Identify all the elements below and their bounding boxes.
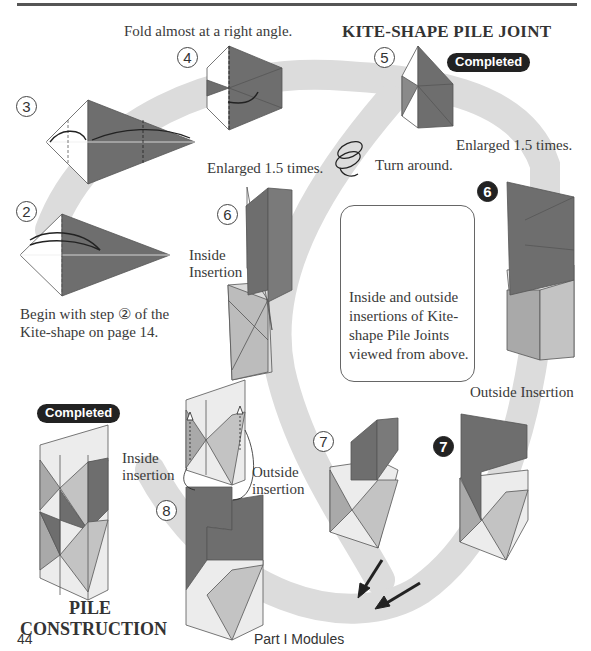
page-title: KITE-SHAPE PILE JOINT bbox=[342, 22, 551, 42]
step-number-3: 3 bbox=[16, 96, 37, 117]
step-number-8: 8 bbox=[156, 500, 177, 521]
caption-outside-insertion: Outside Insertion bbox=[470, 384, 574, 401]
step-number-5: 5 bbox=[374, 47, 395, 68]
step7-inside bbox=[330, 418, 398, 548]
label-inside-insertion-l2: insertion bbox=[122, 467, 175, 484]
completed-pile bbox=[40, 425, 108, 600]
step4-fold bbox=[207, 46, 282, 130]
step-number-6-inside: 6 bbox=[217, 204, 238, 225]
caption-inside-insertion-l2: Insertion bbox=[189, 264, 242, 281]
info-box-text: Inside and outside insertions of Kite-sh… bbox=[349, 288, 474, 364]
step-number-2: 2 bbox=[16, 201, 37, 222]
completed-badge-top: Completed bbox=[447, 53, 530, 72]
step7-outside bbox=[460, 414, 528, 560]
page-number: 44 bbox=[17, 631, 33, 647]
step-number-4: 4 bbox=[177, 47, 198, 68]
step-number-6-outside: 6 bbox=[477, 181, 498, 202]
running-footer: Part I Modules bbox=[254, 631, 344, 647]
label-inside-insertion-l1: Inside bbox=[122, 450, 159, 467]
step8-assembly bbox=[184, 380, 263, 640]
step6-outside-insertion bbox=[507, 182, 574, 360]
step-number-7-inside: 7 bbox=[313, 431, 334, 452]
label-outside-insertion-l1: Outside bbox=[252, 464, 299, 481]
caption-inside-insertion-l1: Inside bbox=[189, 247, 226, 264]
info-box: Inside and outside insertions of Kite-sh… bbox=[340, 205, 475, 382]
caption-fold-right-angle: Fold almost at a right angle. bbox=[124, 23, 292, 40]
caption-begin-l2: Kite-shape on page 14. bbox=[20, 324, 158, 341]
label-outside-insertion-l2: insertion bbox=[252, 481, 305, 498]
caption-enlarged-left: Enlarged 1.5 times. bbox=[207, 160, 323, 177]
section-title-line1: PILE bbox=[20, 598, 160, 619]
step5-unit bbox=[402, 46, 453, 128]
caption-turn-around: Turn around. bbox=[375, 157, 453, 174]
completed-badge-bottom: Completed bbox=[37, 404, 120, 423]
step-number-7-outside: 7 bbox=[433, 436, 454, 457]
section-title: PILE CONSTRUCTION bbox=[20, 598, 160, 640]
caption-begin-l1: Begin with step ② of the bbox=[20, 306, 169, 323]
section-title-line2: CONSTRUCTION bbox=[20, 619, 160, 640]
caption-enlarged-right: Enlarged 1.5 times. bbox=[456, 137, 572, 154]
